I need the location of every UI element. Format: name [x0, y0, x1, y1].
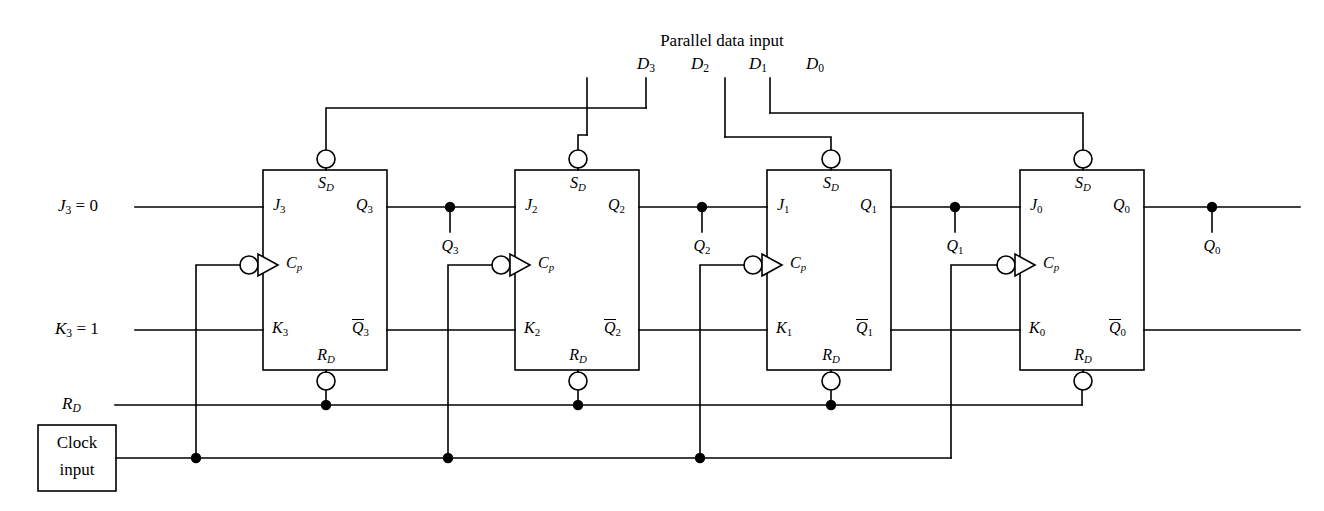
circuit-diagram-canvas: Parallel data input D3 D2 D1 D0 J3 = 0 K… [0, 0, 1324, 511]
junction-dot-q0 [1207, 202, 1217, 212]
tap-label-q2: Q2 [694, 238, 711, 256]
pin-label-q0: Q0 [1113, 197, 1130, 215]
wire-clock-leg-ff3 [196, 265, 240, 458]
cp-triangle-ff0 [1015, 254, 1035, 276]
wire-d2-to-sd2 [578, 135, 587, 150]
cp-bubble-ff3 [240, 256, 258, 274]
schematic-svg [0, 0, 1324, 511]
pin-label-k1: K1 [776, 320, 792, 338]
wire-d1-to-sd1 [725, 137, 831, 150]
pin-label-qbar0: Q0 [1109, 320, 1126, 338]
pin-label-cp-ff0: Cp [1043, 255, 1059, 273]
port-label-d0: D0 [806, 55, 824, 75]
cp-triangle-ff3 [258, 254, 278, 276]
pin-label-j1: J1 [777, 197, 790, 215]
pin-label-j0: J0 [1030, 197, 1043, 215]
pin-label-q3: Q3 [356, 197, 373, 215]
parallel-data-input-title: Parallel data input [660, 32, 784, 49]
cp-triangle-ff2 [510, 254, 530, 276]
tap-label-q0: Q0 [1204, 238, 1221, 256]
junction-dot-rd-ff2 [573, 400, 583, 410]
junction-dot-rd-ff1 [826, 400, 836, 410]
rd-bubble-ff1 [822, 372, 840, 390]
pin-label-sd-ff3: SD [318, 175, 334, 193]
wire-clock-leg-ff0 [951, 265, 997, 458]
rd-bubble-ff2 [569, 372, 587, 390]
sd-bubble-ff1 [822, 150, 840, 168]
port-label-d1: D1 [749, 55, 767, 75]
pin-label-q1: Q1 [860, 197, 877, 215]
cp-triangle-ff1 [762, 254, 782, 276]
junction-dot-q3 [445, 202, 455, 212]
sd-bubble-ff3 [317, 150, 335, 168]
port-label-d2: D2 [691, 55, 709, 75]
pin-label-rd-ff0: RD [1074, 347, 1092, 365]
sd-bubble-ff2 [569, 150, 587, 168]
pin-label-cp-ff2: Cp [538, 255, 554, 273]
wire-d3-to-sd3 [326, 108, 646, 150]
input-label-j3: J3 = 0 [58, 197, 98, 217]
junction-dot-q2 [697, 202, 707, 212]
pin-label-cp-ff1: Cp [790, 255, 806, 273]
junction-dot-q1 [950, 202, 960, 212]
junction-dot-clock-ff3 [191, 453, 201, 463]
pin-label-qbar1: Q1 [856, 320, 873, 338]
wire-d0-to-sd0 [770, 113, 1083, 150]
rd-bubble-ff3 [317, 372, 335, 390]
port-label-d3: D3 [637, 55, 655, 75]
pin-label-qbar3: Q3 [352, 320, 369, 338]
tap-label-q1: Q1 [947, 238, 964, 256]
pin-label-rd-ff1: RD [822, 347, 840, 365]
pin-label-sd-ff0: SD [1075, 175, 1091, 193]
tap-label-q3: Q3 [442, 238, 459, 256]
pin-label-qbar2: Q2 [604, 320, 621, 338]
clock-input-line1: Clock [57, 434, 98, 451]
pin-label-q2: Q2 [608, 197, 625, 215]
pin-label-sd-ff1: SD [823, 175, 839, 193]
clock-input-line2: input [60, 461, 95, 478]
wire-clock-leg-ff2 [448, 265, 492, 458]
cp-bubble-ff1 [744, 256, 762, 274]
rd-bubble-ff0 [1074, 372, 1092, 390]
input-label-k3: K3 = 1 [55, 320, 99, 340]
pin-label-rd-ff3: RD [317, 347, 335, 365]
sd-bubble-ff0 [1074, 150, 1092, 168]
cp-bubble-ff0 [997, 256, 1015, 274]
pin-label-j2: J2 [525, 197, 538, 215]
wire-clock-leg-ff1 [700, 265, 744, 458]
pin-label-sd-ff2: SD [570, 175, 586, 193]
cp-bubble-ff2 [492, 256, 510, 274]
pin-label-cp-ff3: Cp [286, 255, 302, 273]
junction-dot-rd-ff3 [321, 400, 331, 410]
pin-label-j3: J3 [273, 197, 286, 215]
input-label-rd: RD [62, 395, 81, 415]
junction-dot-clock-ff1 [695, 453, 705, 463]
pin-label-rd-ff2: RD [569, 347, 587, 365]
pin-label-k0: K0 [1029, 320, 1045, 338]
junction-dot-clock-ff2 [443, 453, 453, 463]
pin-label-k3: K3 [272, 320, 288, 338]
pin-label-k2: K2 [524, 320, 540, 338]
